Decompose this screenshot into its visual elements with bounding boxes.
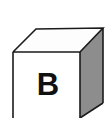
cube-drawing: B [0, 0, 111, 118]
cube-figure: B [0, 0, 111, 118]
cube-face-label: B [37, 67, 59, 102]
